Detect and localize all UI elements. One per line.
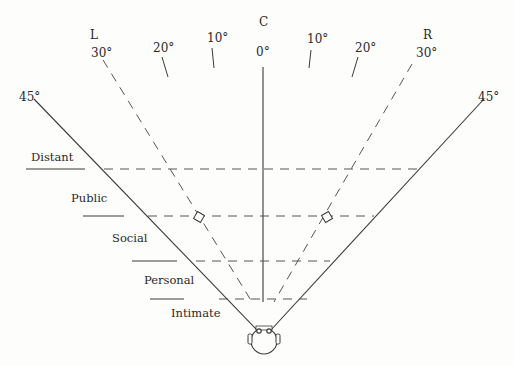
angle-label-left-20: 20° <box>153 42 174 54</box>
left-10-tick <box>212 48 214 68</box>
left-45-line <box>34 99 258 331</box>
angle-label-left-30: 30° <box>91 47 112 59</box>
angle-label-center-0: 0° <box>256 46 270 58</box>
angle-label-right-10: 10° <box>307 33 328 45</box>
right-direction-label: R <box>423 29 432 41</box>
zone-label-public: Public <box>71 193 107 205</box>
left-screen-marker <box>194 212 205 223</box>
zone-label-personal: Personal <box>144 275 194 287</box>
angle-label-right-30: 30° <box>416 47 437 59</box>
right-screen-marker <box>322 212 333 223</box>
right-10-tick <box>309 50 311 68</box>
angle-label-left-10: 10° <box>207 32 228 44</box>
angle-label-right-20: 20° <box>355 42 376 54</box>
zone-label-distant: Distant <box>31 152 73 164</box>
right-20-tick <box>352 57 358 77</box>
angle-label-right-45: 45° <box>478 91 499 103</box>
center-direction-label: C <box>259 16 268 28</box>
right-30-dashed-line <box>274 64 412 302</box>
left-20-tick <box>162 57 168 77</box>
zone-label-intimate: Intimate <box>171 308 220 320</box>
angle-label-left-45: 45° <box>19 91 40 103</box>
left-30-dashed-line <box>103 60 252 302</box>
left-direction-label: L <box>90 29 98 41</box>
right-45-line <box>270 99 484 331</box>
viewer-head-icon <box>248 326 280 354</box>
zone-label-social: Social <box>112 233 147 245</box>
